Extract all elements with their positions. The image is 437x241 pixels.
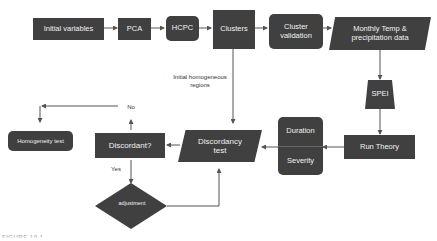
node-spei: SPEI — [365, 80, 395, 109]
node-hcpc-label: HCPC — [172, 24, 193, 33]
node-cluster-validation-label-2: validation — [280, 32, 312, 41]
node-pca: PCA — [118, 18, 151, 40]
node-run-theory-label: Run Theory — [360, 143, 399, 152]
node-discordant-decision: Discordant? — [95, 133, 165, 158]
node-severity: Severity — [278, 147, 323, 175]
node-severity-label: Severity — [287, 157, 314, 166]
node-initial-variables: Initial variables — [33, 18, 104, 40]
node-run-theory: Run Theory — [344, 135, 415, 159]
edge-label-initial-homogeneous-regions: Initial homogeneous regions — [170, 74, 230, 90]
node-monthly-temp-precip-data: Monthly Temp & precipitation data — [329, 17, 431, 50]
edge-label-yes: Yes — [109, 166, 123, 174]
node-discordant-label: Discordant? — [109, 141, 152, 150]
node-discordancy-test-label-1: Discordancy — [198, 137, 242, 146]
node-clusters-label: Clusters — [220, 25, 248, 34]
node-initial-variables-label: Initial variables — [44, 25, 94, 34]
node-spei-label: SPEI — [371, 90, 388, 99]
node-pca-label: PCA — [127, 25, 142, 34]
edge-label-line-2: regions — [170, 82, 230, 90]
node-homogeneity-test: Homogeneity test — [8, 131, 73, 151]
node-clusters: Clusters — [213, 10, 255, 49]
edge-label-line-1: Initial homogeneous — [170, 74, 230, 82]
node-monthly-label-2: precipitation data — [351, 34, 408, 43]
node-hcpc: HCPC — [166, 16, 199, 41]
node-homogeneity-test-label: Homogeneity test — [17, 138, 64, 145]
node-discordancy-test-label-2: test — [214, 146, 227, 155]
node-adjustment-label: adjustment — [112, 200, 152, 207]
node-cluster-validation: Cluster validation — [269, 14, 323, 49]
edge-label-no: No — [124, 104, 138, 112]
node-duration: Duration — [278, 117, 323, 147]
node-duration-label: Duration — [286, 127, 314, 136]
node-discordancy-test: Discordancy test — [178, 130, 262, 162]
